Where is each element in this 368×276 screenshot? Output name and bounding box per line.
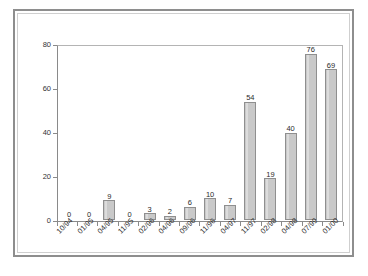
bar-slot: 69 (321, 47, 341, 220)
bar-highlight (307, 55, 309, 219)
bar-slot: 54 (240, 47, 260, 220)
bar-value-label: 2 (168, 208, 172, 216)
bar-highlight (246, 103, 248, 219)
bar-value-label: 19 (266, 171, 274, 179)
bar-value-label: 9 (107, 193, 111, 201)
x-axis-label-slot: 02/98 (261, 228, 281, 268)
bar-slot: 0 (59, 47, 79, 220)
y-axis-tick-label: 0 (33, 217, 51, 225)
bar-slot: 6 (180, 47, 200, 220)
bar-highlight (327, 70, 329, 219)
x-axis-label-slot: 11/97 (241, 228, 261, 268)
x-axis-label-slot: 02/96 (139, 228, 159, 268)
x-axis-label-slot: 07/99 (302, 228, 322, 268)
y-axis-tick-label: 40 (33, 129, 51, 137)
bar-highlight (226, 206, 228, 219)
bar-value-label: 6 (188, 199, 192, 207)
bar-value-label: 3 (148, 206, 152, 214)
plot-area: 00903261075419407669 (57, 45, 343, 222)
bar-slot: 19 (260, 47, 280, 220)
bar-slot: 9 (99, 47, 119, 220)
x-axis-label-slot: 10/94 (57, 228, 77, 268)
bar-slot: 76 (301, 47, 321, 220)
bar: 69 (325, 69, 337, 220)
y-axis-tick-label: 60 (33, 85, 51, 93)
bar: 19 (264, 178, 276, 220)
bar-value-label: 7 (228, 197, 232, 205)
y-axis-tick-label: 80 (33, 41, 51, 49)
x-axis-label-slot: 11/95 (118, 228, 138, 268)
bar-slot: 3 (140, 47, 160, 220)
bar-value-label: 69 (327, 62, 335, 70)
x-axis-label-slot: 01/95 (77, 228, 97, 268)
bar-value-label: 40 (286, 125, 294, 133)
x-axis-labels: 10/9401/9504/9511/9502/9604/9609/9611/96… (57, 228, 343, 268)
figure: 020406080 00903261075419407669 10/9401/9… (0, 0, 368, 276)
bar-slot: 0 (119, 47, 139, 220)
bar-series: 00903261075419407669 (59, 47, 341, 220)
bar-highlight (186, 208, 188, 219)
bar-highlight (287, 134, 289, 220)
bar-slot: 10 (200, 47, 220, 220)
y-axis-tick-label: 20 (33, 173, 51, 181)
bar-value-label: 10 (206, 191, 214, 199)
x-axis-label-slot: 09/96 (180, 228, 200, 268)
x-axis-label-slot: 11/96 (200, 228, 220, 268)
bar-slot: 40 (281, 47, 301, 220)
bar-highlight (266, 179, 268, 219)
bar-highlight (206, 199, 208, 219)
bar-value-label: 76 (307, 46, 315, 54)
bar: 40 (285, 133, 297, 221)
x-axis-label-slot: 01/00 (322, 228, 342, 268)
bar-slot: 7 (220, 47, 240, 220)
x-axis-label-slot: 04/96 (159, 228, 179, 268)
bar-slot: 2 (160, 47, 180, 220)
x-axis-tick-mark (343, 222, 344, 226)
bar-value-label: 54 (246, 94, 254, 102)
figure-outer-border: 020406080 00903261075419407669 10/9401/9… (13, 9, 354, 257)
x-axis-label-slot: 04/97 (220, 228, 240, 268)
x-axis-label-slot: 04/98 (282, 228, 302, 268)
bar-slot: 0 (79, 47, 99, 220)
bar: 76 (305, 54, 317, 220)
bar: 54 (244, 102, 256, 220)
x-axis-label-slot: 04/95 (98, 228, 118, 268)
